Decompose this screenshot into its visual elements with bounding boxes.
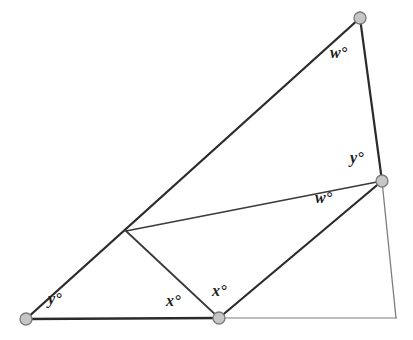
vertex-dot-bottom-left <box>20 313 32 325</box>
angle-label-y-at-c: y° <box>350 150 364 166</box>
segment-bottom-left-baseline <box>26 318 219 319</box>
angle-label-x-right-of-b: x° <box>212 283 227 299</box>
angle-label-w-at-c: w° <box>315 190 332 206</box>
figure-canvas <box>0 0 413 340</box>
segment-inner-horizontal-chord <box>126 181 382 231</box>
angle-label-y-bottom-left: y° <box>48 291 62 307</box>
vertex-dot-right-middle <box>376 175 388 187</box>
angle-label-x-left-of-b: x° <box>166 293 181 309</box>
segment-long-left-diagonal <box>26 18 360 319</box>
angle-label-w-top: w° <box>330 45 347 61</box>
segment-right-lower-edge <box>382 181 396 318</box>
vertex-dot-top-right <box>354 12 366 24</box>
geometry-diagram: y° x° x° w° y° w° <box>0 0 413 340</box>
vertex-dot-bottom-middle <box>213 312 225 324</box>
segment-inner-right-diagonal <box>219 181 382 318</box>
segments-group <box>26 18 396 319</box>
